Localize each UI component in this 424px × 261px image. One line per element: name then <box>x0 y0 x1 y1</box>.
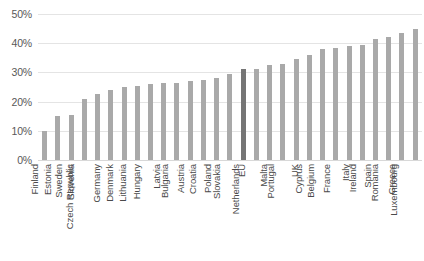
bar[interactable] <box>69 115 74 160</box>
bar[interactable] <box>122 87 127 160</box>
bar[interactable] <box>347 46 352 160</box>
bar[interactable] <box>214 78 219 160</box>
bar-chart: 0%10%20%30%40%50% FinlandEstoniaSwedenSl… <box>0 0 424 261</box>
bar[interactable] <box>399 33 404 160</box>
bar-slot <box>382 14 395 160</box>
x-tick-label: Finland <box>29 164 39 194</box>
y-tick-label: 10% <box>12 125 32 137</box>
bar[interactable] <box>280 64 285 160</box>
bar[interactable] <box>135 86 140 160</box>
bar[interactable] <box>42 131 47 160</box>
bar[interactable] <box>188 81 193 160</box>
y-axis: 0%10%20%30%40%50% <box>0 0 36 175</box>
bar[interactable] <box>201 80 206 160</box>
bar-slot <box>104 14 117 160</box>
x-tick-label: Ireland <box>348 164 358 192</box>
y-tick-label: 20% <box>12 96 32 108</box>
x-tick-label: Czech Republic <box>65 164 75 229</box>
bar[interactable] <box>386 37 391 160</box>
bar-slot <box>289 14 302 160</box>
bar-slot <box>131 14 144 160</box>
x-tick-label: Cyprus <box>295 164 305 194</box>
bar[interactable] <box>55 116 60 160</box>
bar[interactable] <box>360 45 365 160</box>
bar[interactable] <box>373 39 378 160</box>
bar[interactable] <box>95 94 100 160</box>
bar-slot <box>395 14 408 160</box>
bar[interactable] <box>174 83 179 160</box>
bar-slot <box>329 14 342 160</box>
x-tick-label: Poland <box>202 164 212 193</box>
x-tick-label: Denmark <box>105 164 115 202</box>
bar-slot <box>210 14 223 160</box>
bar[interactable] <box>320 49 325 160</box>
bar-slot <box>276 14 289 160</box>
bar-slot <box>316 14 329 160</box>
x-label-slot: Portugal <box>276 162 289 261</box>
x-label-slot: Luxembourg <box>409 162 422 261</box>
bar[interactable] <box>227 74 232 160</box>
bar-slot <box>91 14 104 160</box>
bar[interactable] <box>82 99 87 160</box>
x-tick-label: Hungary <box>133 164 143 199</box>
bar-slot <box>342 14 355 160</box>
bar-slot <box>64 14 77 160</box>
bar-slot <box>409 14 422 160</box>
x-tick-label: Netherlands <box>231 164 241 214</box>
bar[interactable] <box>108 90 113 160</box>
bar[interactable] <box>307 55 312 160</box>
x-tick-label: Slovakia <box>212 164 222 199</box>
bar-slot <box>184 14 197 160</box>
x-label-slot: Slovenia <box>78 162 91 261</box>
bar-slot <box>170 14 183 160</box>
x-tick-label: Croatia <box>188 164 198 194</box>
x-axis-labels: FinlandEstoniaSwedenSloveniaCzech Republ… <box>38 162 422 261</box>
bar-slot <box>51 14 64 160</box>
bar-slot <box>263 14 276 160</box>
bar-slot <box>250 14 263 160</box>
bar-slot <box>78 14 91 160</box>
axis-baseline <box>38 160 422 161</box>
x-tick-label: Germany <box>92 164 102 202</box>
bar-slot <box>303 14 316 160</box>
x-tick-label: Romania <box>370 164 380 201</box>
x-tick-label: Estonia <box>42 164 52 195</box>
x-tick-label: France <box>321 164 331 193</box>
bar-slot <box>157 14 170 160</box>
plot-area <box>38 14 422 160</box>
bar-slot <box>223 14 236 160</box>
bar-slot <box>144 14 157 160</box>
bar[interactable] <box>294 59 299 160</box>
bar-slot <box>369 14 382 160</box>
bar-slot <box>38 14 51 160</box>
x-tick-label: Lithuania <box>118 164 128 202</box>
bar[interactable] <box>148 84 153 160</box>
bar-slot <box>237 14 250 160</box>
bar-series <box>38 14 422 160</box>
bar-slot <box>197 14 210 160</box>
bar-slot <box>117 14 130 160</box>
y-tick-label: 50% <box>12 8 32 20</box>
bar[interactable] <box>267 65 272 160</box>
bar[interactable] <box>161 83 166 160</box>
x-tick-label: Austria <box>176 164 186 193</box>
x-tick-label: Sweden <box>54 164 64 198</box>
y-tick-label: 30% <box>12 66 32 78</box>
bar[interactable] <box>241 69 246 160</box>
bar-slot <box>356 14 369 160</box>
x-tick-label: Bulgaria <box>160 164 170 198</box>
bar[interactable] <box>413 29 418 160</box>
bar[interactable] <box>254 69 259 160</box>
bar[interactable] <box>333 48 338 160</box>
x-tick-label: Portugal <box>266 164 276 199</box>
x-tick-label: Belgium <box>306 164 316 198</box>
y-tick-label: 40% <box>12 37 32 49</box>
x-tick-label: Luxembourg <box>389 164 399 216</box>
